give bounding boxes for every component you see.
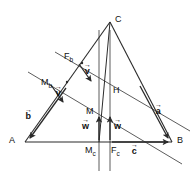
vector-letter-w-left: w <box>82 122 89 130</box>
vector-letter-v-lower: v <box>55 89 62 97</box>
point-label-Mc-base: M <box>85 145 93 155</box>
vector-a-arrow <box>140 86 168 138</box>
construction-lines <box>28 30 190 171</box>
vector-label-v-upper: → v <box>84 63 91 75</box>
point-label-C: C <box>115 15 122 24</box>
point-label-Fc: Fc <box>111 146 120 157</box>
geometry-diagram: A B C H M Mb Mc Fb Fc → b → a → c → v → … <box>0 0 193 177</box>
vector-label-b: → b <box>25 108 32 120</box>
point-label-Mc: Mc <box>85 146 96 157</box>
point-label-Mc-sub: c <box>93 150 96 157</box>
vector-label-w-right: → w <box>114 118 121 130</box>
vector-letter-v-upper: v <box>84 67 91 75</box>
vector-letter-a: a <box>155 107 162 115</box>
diagonal-Fb-to-B-line <box>55 52 190 131</box>
vector-label-w-left: → w <box>82 118 89 130</box>
vector-label-a: → a <box>155 103 162 115</box>
point-label-M: M <box>86 107 94 116</box>
vector-label-v-lower: → v <box>55 85 62 97</box>
diagram-canvas <box>0 0 193 177</box>
vector-letter-c: c <box>131 147 138 155</box>
point-label-A: A <box>9 136 15 145</box>
median-C-to-Mc-line <box>99 22 110 142</box>
point-dot-Mb <box>66 81 68 83</box>
point-label-H: H <box>113 86 120 95</box>
point-label-Fc-sub: c <box>117 150 120 157</box>
point-label-B: B <box>177 136 183 145</box>
point-label-Fb-sub: b <box>70 56 74 63</box>
point-label-Fb: Fb <box>64 52 73 63</box>
vector-letter-b: b <box>25 112 32 120</box>
point-label-Mb-base: M <box>41 77 49 87</box>
point-dot-Fb <box>81 62 83 64</box>
point-label-Mb-sub: b <box>49 82 53 89</box>
vector-letter-w-right: w <box>114 122 121 130</box>
vector-label-c: → c <box>131 143 138 155</box>
point-label-Mb: Mb <box>41 78 52 89</box>
